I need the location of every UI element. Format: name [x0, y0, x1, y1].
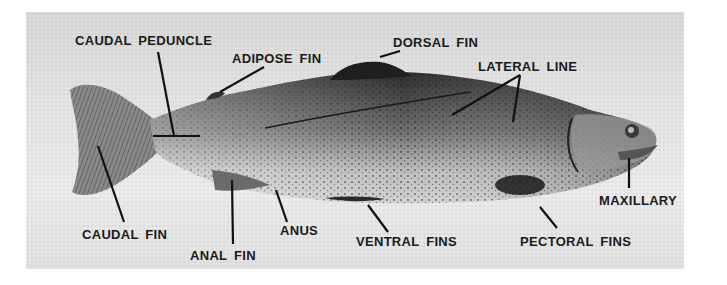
fish-head [568, 114, 658, 172]
pointer-dorsal-fin [380, 51, 400, 57]
pointer-anal-fin [232, 180, 233, 244]
label-dorsal-fin: DORSAL FIN [393, 35, 478, 50]
label-caudal-peduncle: CAUDAL PEDUNCLE [75, 33, 212, 48]
pointer-ventral-fins [368, 205, 388, 232]
label-anal-fin: ANAL FIN [190, 248, 256, 263]
caudal-fin-shape [70, 85, 160, 195]
label-adipose-fin: ADIPOSE FIN [232, 51, 321, 66]
label-maxillary: MAXILLARY [599, 193, 677, 208]
pectoral-fin-shape [495, 175, 545, 195]
label-pectoral-fins: PECTORAL FINS [520, 234, 631, 249]
pointer-pectoral-fins [540, 207, 557, 228]
label-caudal-fin: CAUDAL FIN [82, 227, 167, 242]
label-anus: ANUS [280, 223, 318, 238]
pointer-adipose-fin [220, 67, 264, 92]
label-lateral-line: LATERAL LINE [478, 59, 577, 74]
label-ventral-fins: VENTRAL FINS [356, 234, 457, 249]
